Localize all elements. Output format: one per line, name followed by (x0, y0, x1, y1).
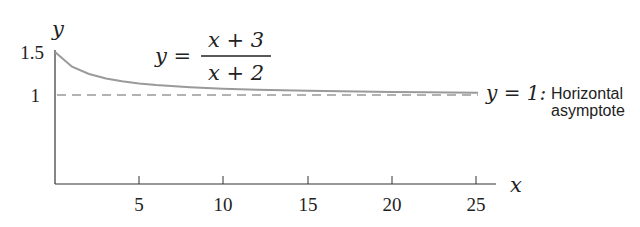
function-lhs: y = (154, 44, 191, 68)
function-denominator: x + 2 (208, 61, 264, 85)
x-ticks (139, 176, 476, 184)
x-tick-label-10: 10 (214, 194, 233, 215)
asymptote-label: y = 1: Horizontal asymptote (485, 81, 625, 119)
asymptote-chart: y x 1.5 1 5 10 15 20 25 y = x + 3 x + 2 … (0, 0, 640, 227)
asymptote-equation: y = 1: (485, 81, 546, 105)
function-numerator: x + 3 (208, 28, 264, 52)
x-tick-labels: 5 10 15 20 25 (134, 194, 485, 215)
x-tick-label-25: 25 (467, 194, 486, 215)
function-label: y = x + 3 x + 2 (154, 28, 271, 85)
x-tick-label-5: 5 (134, 194, 144, 215)
x-axis-label: x (510, 173, 522, 197)
function-curve (55, 52, 478, 93)
asymptote-text-line2: asymptote (551, 102, 625, 119)
x-tick-label-20: 20 (383, 194, 402, 215)
asymptote-text-line1: Horizontal (551, 85, 623, 102)
y-tick-label-1.5: 1.5 (20, 42, 44, 63)
y-tick-label-1: 1 (31, 85, 41, 106)
y-axis-label: y (51, 17, 65, 41)
x-tick-label-15: 15 (299, 194, 318, 215)
